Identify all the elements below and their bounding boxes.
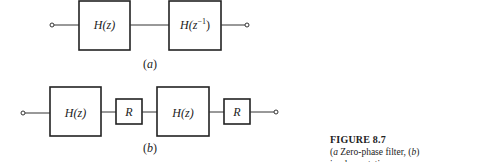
output-terminal-a	[245, 23, 249, 27]
input-terminal-b	[21, 111, 25, 115]
figure-caption: FIGURE 8.7 (a Zero-phase filter, (b) imp…	[330, 134, 477, 162]
input-terminal-a	[50, 23, 54, 27]
diagram-a: H(z) H(z−1) (a)	[50, 1, 249, 71]
block-label: H(z)	[64, 106, 86, 120]
diagram-a-label: (a)	[143, 57, 157, 71]
diagram-b: H(z) R H(z) R (b)	[21, 87, 278, 155]
diagram-b-label: (b)	[143, 141, 157, 155]
caption-a-text: Zero-phase filter, (	[338, 147, 411, 157]
block-label: H(z−1)	[179, 17, 210, 32]
block-label: H(z)	[93, 18, 115, 32]
figure-description: (a Zero-phase filter, (b) implementation…	[330, 146, 477, 162]
block-label: H(z)	[171, 106, 193, 120]
block-label: R	[232, 105, 241, 119]
figure-title: FIGURE 8.7	[330, 134, 477, 146]
output-terminal-b	[274, 110, 278, 114]
block-label: R	[124, 105, 133, 119]
